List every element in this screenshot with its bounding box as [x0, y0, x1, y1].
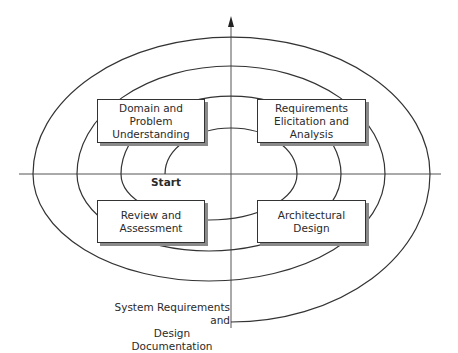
phase-label-line3: Analysis: [274, 128, 349, 141]
phase-label-line2: Understanding: [102, 128, 200, 141]
phase-label-line1: Review and: [120, 209, 183, 222]
phase-label-line1: Architectural: [278, 209, 345, 222]
start-label: Start: [150, 176, 182, 189]
phase-label-line2: Assessment: [120, 222, 183, 235]
phase-label-line2: Design: [278, 222, 345, 235]
arrow-up-icon: [228, 16, 234, 27]
phase-requirements-elicitation: Requirements Elicitation and Analysis: [257, 99, 366, 143]
end-label-line2: Design Documentation: [100, 327, 230, 353]
end-label: System Requirements and Design Documenta…: [100, 301, 230, 353]
phase-architectural-design: Architectural Design: [257, 200, 366, 243]
phase-label-line1: Domain and Problem: [102, 102, 200, 128]
end-label-line1: System Requirements and: [100, 301, 230, 327]
phase-domain-understanding: Domain and Problem Understanding: [97, 99, 205, 143]
phase-label-line1: Requirements: [274, 102, 349, 115]
phase-review-assessment: Review and Assessment: [97, 200, 205, 243]
phase-label-line2: Elicitation and: [274, 115, 349, 128]
